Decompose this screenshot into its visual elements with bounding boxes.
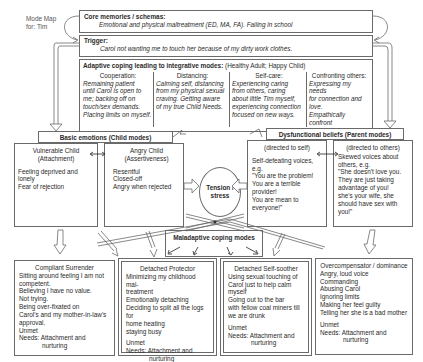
basic-emotions-header: Basic emotions (Child modes) xyxy=(38,131,173,143)
directed-to-others-box: (directed to others) Skewed voices about… xyxy=(333,140,413,227)
trigger-title: Trigger: xyxy=(84,37,368,45)
mode-map-label: Mode Map for: Tim xyxy=(26,15,76,31)
coping-box-detached-self-soother: Detached Self-soother Using sexual touch… xyxy=(220,258,312,356)
tension-stress-node: Tension / stress xyxy=(199,167,241,217)
vulnerable-child-box: Vulnerable Child (Attachment) Feeling de… xyxy=(14,143,98,227)
adaptive-column-distancing: Distancing: Calming self, distancing fro… xyxy=(154,72,230,127)
dysfunctional-beliefs-header: Dysfunctional beliefs (Parent modes) xyxy=(266,128,404,140)
trigger-box: Trigger: Carol not wanting me to touch h… xyxy=(79,35,373,57)
adaptive-column-confronting: Confronting others: Expressing my needs … xyxy=(307,72,369,127)
adaptive-coping-header: Adaptive coping leading to integrative m… xyxy=(83,62,369,70)
core-memories-box: Core memories / schemas: Emotional and p… xyxy=(79,10,373,33)
maladaptive-coping-header: Maladaptive coping modes xyxy=(165,230,263,257)
loop-arrow-right-icon xyxy=(373,16,388,40)
adaptive-column-cooperation: Cooperation: Remaining patient until Car… xyxy=(83,72,154,127)
core-memories-text: Emotional and physical maltreatment (ED,… xyxy=(84,21,368,29)
trigger-text: Carol not wanting me to touch her becaus… xyxy=(84,45,368,53)
directed-to-self-box: (directed to self) Self-defeating voices… xyxy=(247,140,327,227)
coping-box-compliant-surrender: Compliant Surrender Sitting around feeli… xyxy=(14,260,115,356)
angry-child-box: Angry Child (Assertiveness) Resentful Cl… xyxy=(104,143,184,227)
adaptive-coping-box: Adaptive coping leading to integrative m… xyxy=(79,59,373,132)
adaptive-column-self-care: Self-care: Experiencing caring from othe… xyxy=(230,72,307,127)
coping-box-overcompensator: Overcompensator / dominance Angry, loud … xyxy=(315,258,413,355)
coping-box-detached-protector: Detached Protector Minimizing my childho… xyxy=(118,258,217,356)
core-memories-title: Core memories / schemas: xyxy=(84,13,368,21)
